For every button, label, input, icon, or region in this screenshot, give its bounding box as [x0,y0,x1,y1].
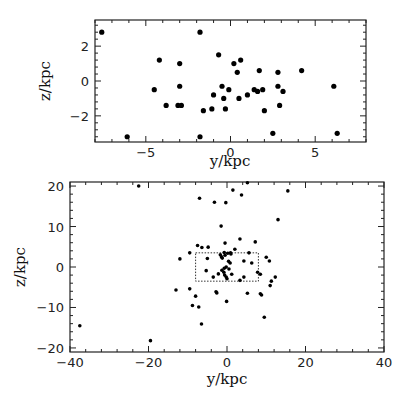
data-point [260,293,264,297]
data-point [286,189,290,193]
data-point [197,134,202,139]
data-point [198,196,202,200]
data-point [225,277,229,281]
data-point [270,131,275,136]
data-point [211,92,216,97]
data-point [220,256,224,260]
data-point [242,275,246,279]
data-point [270,279,274,283]
data-point [273,275,277,279]
top-x-axis-label: y/kpc [209,152,251,170]
data-point [211,275,215,279]
data-point [233,247,237,251]
data-point [268,284,272,288]
data-point [231,61,236,66]
data-point [196,244,200,248]
data-point [164,103,169,108]
data-point [250,261,254,265]
data-point [262,108,267,113]
data-point [247,251,251,255]
data-point [246,181,250,185]
y-tick-label: 10 [47,220,64,235]
x-tick-label: −5 [136,145,155,160]
data-point [188,251,192,255]
data-point [230,272,234,276]
y-tick-label: 2 [81,39,89,54]
data-point [223,106,228,111]
data-point [242,259,246,263]
data-point [229,252,233,256]
top-y-axis-label: z/kpc [36,61,54,101]
data-point [221,96,226,101]
bottom-x-axis-label: y/kpc [206,370,248,388]
data-point [299,68,304,73]
data-point [238,237,242,241]
data-point [226,87,231,92]
bottom-scatter-panel: −40−2002040−20−1001020 [37,179,393,370]
data-point [253,240,257,244]
data-point [99,30,104,35]
data-point [200,246,204,250]
y-tick-label: −20 [37,341,64,356]
x-tick-label: 0 [223,355,231,370]
data-point [225,300,229,304]
x-tick-label: 40 [376,355,393,370]
y-tick-label: 20 [47,179,64,194]
data-point [275,84,280,89]
data-point [178,257,182,261]
data-point [335,131,340,136]
data-point [255,89,260,94]
data-point [206,257,210,261]
x-tick-label: 20 [297,355,314,370]
y-tick-label: 0 [81,74,89,89]
data-point [78,324,82,328]
data-point [204,269,208,273]
data-point [275,70,280,75]
data-point [125,134,130,139]
data-point [217,272,221,276]
bottom-y-axis-label: z/kpc [11,247,29,287]
data-point [197,30,202,35]
y-tick-label: 0 [56,260,64,275]
y-tick-label: −2 [70,109,89,124]
data-point [223,241,227,245]
data-point [177,84,182,89]
data-point [152,87,157,92]
x-tick-label: 5 [311,145,319,160]
data-point [231,188,235,192]
data-point [219,224,223,228]
data-point [260,87,265,92]
x-tick-label: −40 [56,355,83,370]
data-point [259,272,263,276]
plot-frame [95,20,366,142]
data-point [149,339,153,343]
data-point [201,108,206,113]
data-point [245,92,250,97]
data-point [219,84,224,89]
data-point [191,304,195,308]
data-point [224,201,228,205]
data-point [216,52,221,57]
data-point [331,84,336,89]
data-point [257,68,262,73]
data-point [276,218,280,222]
data-point [280,89,285,94]
data-point [137,184,141,188]
data-point [197,305,201,309]
data-point [188,287,192,291]
data-point [177,61,182,66]
data-point [200,322,204,326]
data-point [264,255,268,259]
data-point [215,291,219,295]
data-point [268,259,272,263]
data-point [235,70,240,75]
data-point [194,294,198,298]
data-point [206,245,210,249]
data-point [238,279,242,283]
top-scatter-panel: −505−202 [70,20,366,160]
data-point [223,253,227,257]
x-tick-label: −20 [135,355,162,370]
data-point [246,292,250,296]
data-point [262,315,266,319]
data-point [277,103,282,108]
